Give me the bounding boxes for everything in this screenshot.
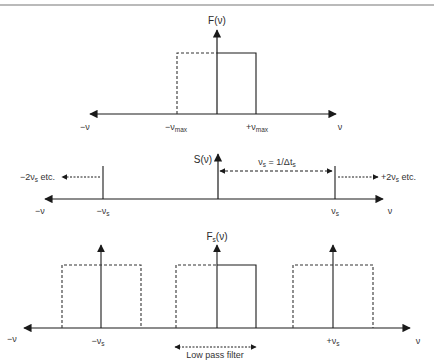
axis-label-pos-inf: ν [388, 206, 393, 216]
function-label-F: F(ν) [208, 15, 226, 26]
panel-sampling-function: S(ν) νs = 1/Δts −2νs etc. +2νs etc. −ν −… [20, 154, 416, 217]
axis-label-neg-inf: −ν [80, 122, 90, 132]
panel-sampled-spectrum: Fs(ν) −ν −νs +νs ν Low pass filter [7, 231, 421, 360]
axis-label-neg-inf: −ν [7, 334, 17, 344]
replica-center-positive-half [217, 265, 256, 328]
axis-label-pos-inf: ν [338, 122, 343, 132]
axis-label-pos-max: +νmax [246, 122, 269, 133]
sampling-theorem-diagram: F(ν) −ν −νmax +νmax ν S(ν) νs = 1/Δts −2… [0, 0, 434, 361]
spectrum-positive-half [217, 53, 256, 114]
function-label-S: S(ν) [194, 154, 212, 165]
replica-center-negative-half [176, 265, 217, 328]
axis-label-pos-s: +νs [326, 336, 340, 347]
axis-label-neg-inf: −ν [35, 206, 45, 216]
function-label-Fs: Fs(ν) [206, 231, 227, 243]
axis-label-pos-inf: ν [416, 336, 421, 346]
spectrum-negative-half [177, 53, 217, 114]
panel-original-spectrum: F(ν) −ν −νmax +νmax ν [80, 15, 343, 133]
spacing-label: νs = 1/Δts [258, 157, 296, 168]
left-continuation-label: −2νs etc. [20, 172, 55, 183]
axis-label-neg-s: −νs [91, 336, 105, 347]
right-continuation-label: +2νs etc. [381, 172, 416, 183]
low-pass-filter-label: Low pass filter [186, 350, 244, 360]
axis-label-pos-s: νs [331, 206, 340, 217]
axis-label-neg-s: −νs [96, 206, 110, 217]
axis-label-neg-max: −νmax [165, 122, 188, 133]
